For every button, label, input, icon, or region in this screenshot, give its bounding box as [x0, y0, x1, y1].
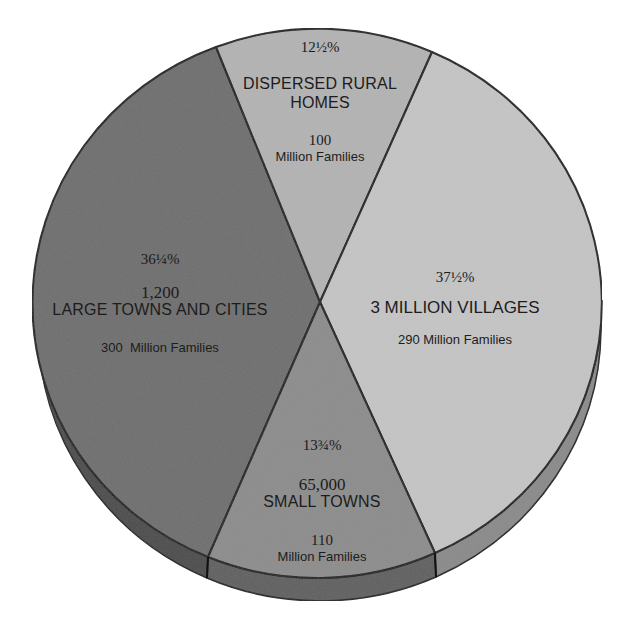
dispersed-name-line1: DISPERSED RURAL [230, 75, 410, 93]
dispersed-percent: 12½% [270, 39, 370, 56]
villages-families: 290 Million Families [370, 333, 540, 348]
large-towns-name: LARGE TOWNS AND CITIES [40, 301, 280, 319]
small-towns-name: SMALL TOWNS [252, 493, 392, 511]
dispersed-families-label: Million Families [240, 150, 400, 165]
small-towns-families-value: 110 [272, 532, 372, 549]
large-towns-count: 1,200 [60, 283, 260, 303]
villages-percent: 37½% [405, 269, 505, 286]
large-towns-percent: 36¼% [110, 251, 210, 268]
small-towns-families-label: Million Families [242, 550, 402, 565]
dispersed-name-line2: HOMES [230, 94, 410, 112]
small-towns-count: 65,000 [262, 475, 382, 495]
large-towns-families: 300 Million Families [60, 341, 260, 356]
small-towns-percent: 13¾% [272, 437, 372, 454]
dispersed-families-value: 100 [270, 132, 370, 149]
villages-name: 3 MILLION VILLAGES [355, 298, 555, 318]
